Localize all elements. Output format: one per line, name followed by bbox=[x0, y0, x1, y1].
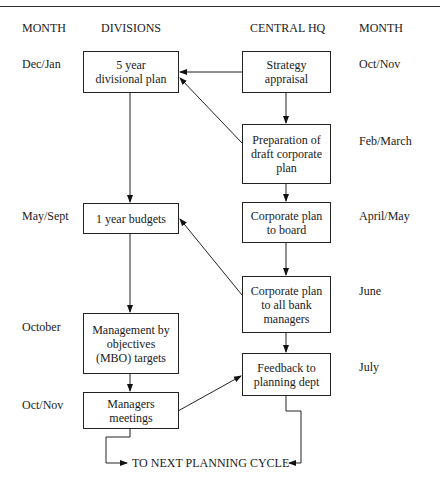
header-central-hq: CENTRAL HQ bbox=[250, 21, 325, 36]
month-right-april-may: April/May bbox=[359, 209, 410, 224]
header-month-left: MONTH bbox=[22, 21, 66, 36]
next-planning-cycle-label: TO NEXT PLANNING CYCLE bbox=[132, 456, 289, 471]
header-divisions: DIVISIONS bbox=[101, 21, 161, 36]
month-left-october: October bbox=[22, 320, 61, 335]
box-5-year-divisional-plan: 5 year divisional plan bbox=[83, 51, 179, 93]
header-month-right: MONTH bbox=[359, 21, 403, 36]
month-right-june: June bbox=[359, 284, 381, 299]
box-1-year-budgets: 1 year budgets bbox=[83, 203, 179, 234]
top-rule bbox=[0, 6, 440, 7]
box-managers-meetings: Managers meetings bbox=[83, 392, 179, 429]
box-corporate-plan-to-managers: Corporate plan to all bank managers bbox=[242, 276, 331, 333]
month-left-may-sept: May/Sept bbox=[22, 209, 69, 224]
month-left-oct-nov: Oct/Nov bbox=[22, 398, 63, 413]
month-right-oct-nov: Oct/Nov bbox=[359, 57, 400, 72]
month-right-july: July bbox=[359, 360, 379, 375]
box-feedback-to-planning: Feedback to planning dept bbox=[242, 353, 331, 396]
box-strategy-appraisal: Strategy appraisal bbox=[242, 51, 331, 93]
month-left-dec-jan: Dec/Jan bbox=[22, 57, 61, 72]
connectors bbox=[0, 0, 440, 487]
box-corporate-plan-to-board: Corporate plan to board bbox=[242, 202, 331, 243]
box-draft-corporate-plan: Preparation of draft corporate plan bbox=[242, 124, 331, 184]
month-right-feb-march: Feb/March bbox=[359, 134, 412, 149]
box-mbo-targets: Management by objectives (MBO) targets bbox=[83, 313, 179, 374]
